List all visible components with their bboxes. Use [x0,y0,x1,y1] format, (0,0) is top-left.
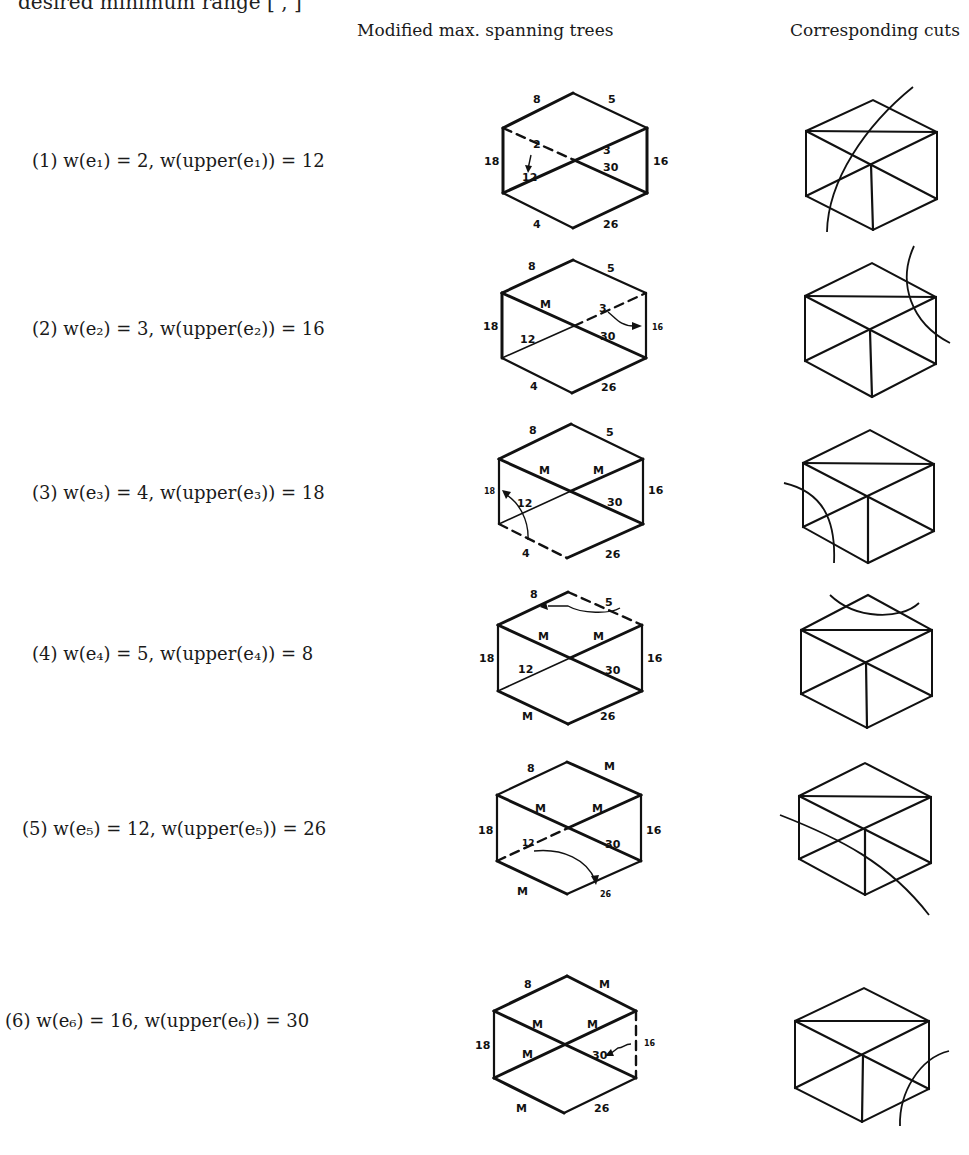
edge-label-top-right: M [599,978,610,991]
edge-label-top-left: 8 [529,424,537,437]
edge-label-bottom-right: 26 [600,890,612,899]
edge-label-top-right: 5 [607,262,615,275]
edge-label-diag-ul: 2 [533,138,541,151]
edge-label-right: 16 [652,323,664,332]
edge-label-left: 18 [479,652,494,665]
edge-label-top-left: 8 [533,93,541,106]
row-label-4: (4) w(e₄) = 5, w(upper(e₄)) = 8 [32,643,313,664]
edge-label-top-left: 8 [530,588,538,601]
edge-label-right: 16 [644,1039,656,1048]
edge-label-diag-ur: M [592,802,603,815]
edge-label-top-left: 8 [527,762,535,775]
edge-label-right: 16 [646,824,662,837]
edge-label-bottom-right: 26 [605,548,621,561]
cut-figure-4 [760,570,969,740]
edge-label-bottom-left: 4 [530,380,538,393]
cut-off-text-fragment: desired minimum range [ , ] [18,0,302,14]
edge-label-diag-lr: 30 [605,838,621,851]
edge-label-diag-ul: M [539,464,550,477]
edge-label-diag-ll: 12 [518,663,533,676]
tree-figure-5: 8 M 18 16 M M 12 30 M 26 [480,740,680,910]
swap-arrow-icon [610,1044,631,1054]
edge-label-right: 16 [648,484,664,497]
arrowhead-icon [632,322,642,330]
edge-label-diag-ur: M [593,464,604,477]
row-label-3: (3) w(e₃) = 4, w(upper(e₃)) = 18 [32,482,325,503]
edge-label-diag-lr: 30 [592,1049,608,1062]
edge-label-top-right: 5 [608,93,616,106]
row-label-1: (1) w(e₁) = 2, w(upper(e₁)) = 12 [32,150,325,171]
edge-label-left: 18 [484,155,499,168]
edge-label-left: 18 [475,1039,490,1052]
edge-label-right: 16 [653,155,669,168]
tree-figure-2: 8 5 18 16 M 3 12 30 4 26 [480,250,680,410]
edge-label-left: 18 [483,320,498,333]
edge-label-diag-ur: 3 [599,302,607,315]
edge-label-bottom-left: 4 [533,218,541,231]
edge-label-bottom-left: 4 [522,547,530,560]
edge-label-diag-lr: 30 [607,496,623,509]
row-label-2: (2) w(e₂) = 3, w(upper(e₂)) = 16 [32,318,325,339]
tree-figure-4: 8 5 18 16 M M 12 30 M 26 [480,570,680,730]
tree-figure-1: 8 5 18 16 4 26 2 3 12 30 [480,80,680,240]
edge-label-diag-lr: 30 [603,161,619,174]
cut-figure-1 [760,60,969,250]
edge-label-diag-ll: M [522,1048,533,1061]
cut-curve [827,87,913,232]
row-label-5: (5) w(e₅) = 12, w(upper(e₅)) = 26 [22,818,326,839]
edge-label-diag-lr: 30 [600,330,616,343]
edge-label-top-left: 8 [528,260,536,273]
edge-label-top-right: M [604,760,615,773]
edge-label-diag-ul: M [540,298,551,311]
edge-label-diag-ul: M [535,802,546,815]
edge-label-top-right: 5 [605,596,613,609]
cut-figure-2 [760,230,969,420]
cut-figure-5 [760,720,969,930]
cut-curve [907,246,950,343]
tree-figure-3: 8 5 18 16 M M 12 30 4 26 [480,410,680,570]
cut-figure-3 [760,410,969,590]
edge-label-diag-ul: M [538,630,549,643]
header-trees: Modified max. spanning trees [357,20,613,40]
edge-label-left: 18 [484,487,496,496]
row-label-6: (6) w(e₆) = 16, w(upper(e₆)) = 30 [5,1010,309,1031]
edge-label-diag-lr: 30 [605,664,621,677]
swap-arrow-icon [608,312,634,326]
cut-figure-6 [760,930,969,1155]
edge-label-top-left: 8 [524,978,532,991]
edge-label-bottom-right: 26 [594,1102,610,1115]
swap-arrow-icon [534,851,595,880]
header-cuts: Corresponding cuts [790,20,960,40]
edge-label-bottom-right: 26 [600,710,616,723]
edge-label-diag-ur: M [587,1018,598,1031]
edge-label-bottom-right: 26 [601,381,617,394]
edge-label-diag-ll: 12 [522,838,535,848]
edge-label-diag-ll: 12 [522,171,537,184]
edge-label-top-right: 5 [606,426,614,439]
tree-figure-6: 8 M 18 16 M M M 30 M 26 [480,960,680,1130]
edge-label-left: 18 [478,824,493,837]
edge-label-bottom-left: M [516,1102,527,1115]
edge-label-diag-ur: M [593,630,604,643]
edge-label-diag-ul: M [532,1018,543,1031]
cut-curve [900,1051,949,1126]
edge-label-bottom-left: M [517,885,528,898]
cut-curve [780,815,929,915]
edge-label-right: 16 [647,652,663,665]
edge-label-diag-ll: 12 [520,333,535,346]
edge-label-bottom-left: M [522,710,533,723]
edge-label-bottom-right: 26 [603,218,619,231]
edge-label-diag-ur: 3 [603,144,611,157]
